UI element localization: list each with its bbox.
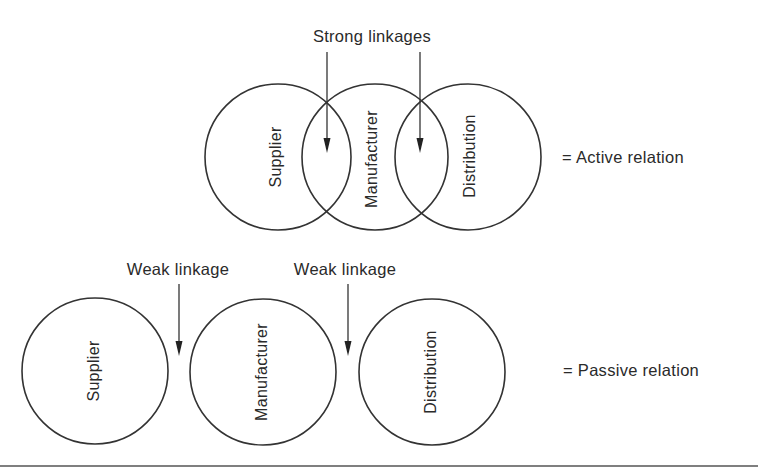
weak-linkage-arrow-2 [345,284,352,356]
arrow-down-icon [324,138,331,153]
supply-chain-relation-diagram: Strong linkages Supplier Manufacturer Di… [0,0,758,476]
passive-manufacturer-label: Manufacturer [253,323,270,421]
passive-distribution-label: Distribution [422,330,439,414]
active-relation-group: Strong linkages Supplier Manufacturer Di… [205,27,684,230]
passive-supplier-label: Supplier [85,340,102,401]
active-distribution-label: Distribution [461,114,478,198]
arrow-down-icon [417,138,424,153]
weak-linkage-label-2: Weak linkage [294,260,396,278]
strong-linkages-label: Strong linkages [313,27,431,45]
strong-linkage-arrow-1 [324,52,331,153]
weak-linkage-arrow-1 [176,284,183,356]
passive-relation-legend: = Passive relation [563,361,699,379]
active-supplier-label: Supplier [267,126,284,187]
active-relation-legend: = Active relation [562,148,684,166]
arrow-down-icon [176,341,183,356]
weak-linkage-label-1: Weak linkage [127,260,229,278]
active-manufacturer-label: Manufacturer [363,110,380,208]
arrow-down-icon [345,341,352,356]
passive-relation-group: Weak linkage Weak linkage Supplier Manuf… [22,260,699,445]
